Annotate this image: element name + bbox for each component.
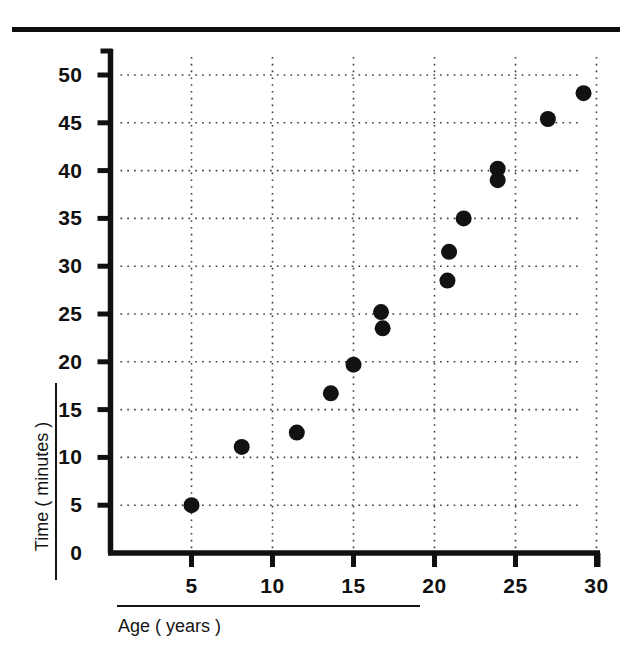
y-tick-label: 30 (37, 255, 83, 276)
scatter-plot (0, 0, 631, 652)
data-point-group (184, 85, 592, 513)
x-tick-label: 20 (412, 575, 458, 596)
x-tick-label: 5 (169, 575, 215, 596)
y-tick-label: 40 (37, 160, 83, 181)
x-axis-title: Age ( years ) (118, 616, 221, 637)
y-axis-title-wrap: Time ( minutes ) (8, 390, 48, 590)
data-point (289, 425, 305, 441)
data-point (346, 357, 362, 373)
y-tick-label: 20 (37, 351, 83, 372)
data-point (576, 85, 592, 101)
data-point (490, 172, 506, 188)
x-tick-label: 25 (493, 575, 539, 596)
x-axis-title-rule (117, 605, 420, 607)
data-point (373, 304, 389, 320)
y-tick-label: 50 (37, 64, 83, 85)
figure-canvas: 05101520253035404550 51015202530 Age ( y… (0, 0, 631, 652)
data-point (323, 385, 339, 401)
data-point (184, 497, 200, 513)
y-axis-title-rule (55, 383, 57, 580)
y-axis-title: Time ( minutes ) (32, 387, 53, 587)
gridlines (121, 57, 597, 551)
y-tick-label: 25 (37, 303, 83, 324)
x-tick-label: 10 (250, 575, 296, 596)
x-tick-label: 15 (331, 575, 377, 596)
y-tick-label: 45 (37, 112, 83, 133)
data-point (375, 320, 391, 336)
axis-lines (101, 49, 601, 553)
x-tick-label: 30 (574, 575, 620, 596)
data-point (439, 273, 455, 289)
data-point (441, 244, 457, 260)
data-point (456, 210, 472, 226)
axis-ticks (98, 75, 599, 567)
data-point (234, 439, 250, 455)
y-tick-label: 35 (37, 207, 83, 228)
data-point (540, 111, 556, 127)
